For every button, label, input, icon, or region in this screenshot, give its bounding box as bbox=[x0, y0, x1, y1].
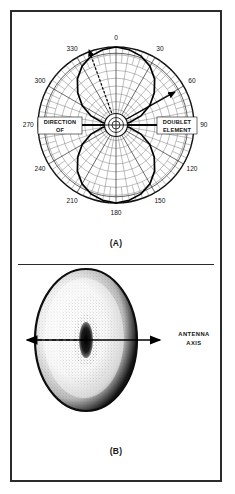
panel-b-solid-pattern: ANTENNA AXIS (B) bbox=[12, 264, 220, 480]
antenna-axis-label-line1: ANTENNA bbox=[178, 331, 210, 337]
angle-label-60: 60 bbox=[188, 77, 196, 84]
toroid-figure: ANTENNA AXIS bbox=[12, 264, 220, 454]
angle-label-30: 30 bbox=[156, 45, 164, 52]
doublet-element-label-line1: DOUBLET bbox=[163, 119, 192, 125]
polar-chart: 0306090120150180210240270300330 bbox=[12, 12, 220, 238]
panel-a-polar-pattern: 0306090120150180210240270300330 bbox=[12, 12, 220, 264]
angle-label-330: 330 bbox=[67, 45, 78, 52]
panel-b-caption: (B) bbox=[12, 446, 220, 456]
angle-label-180: 180 bbox=[110, 209, 121, 216]
direction-of-annotation: DIRECTION OF bbox=[38, 117, 82, 134]
angle-label-0: 0 bbox=[114, 34, 118, 41]
antenna-axis-label-line2: AXIS bbox=[186, 340, 201, 346]
toroid-figure-svg: ANTENNA AXIS bbox=[12, 264, 220, 454]
angle-label-300: 300 bbox=[34, 77, 45, 84]
panel-a-caption: (A) bbox=[12, 238, 220, 248]
doublet-element-annotation: DOUBLET ELEMENT bbox=[157, 117, 197, 134]
angle-label-240: 240 bbox=[34, 165, 45, 172]
angle-label-120: 120 bbox=[186, 165, 197, 172]
figure-frame: 0306090120150180210240270300330 bbox=[10, 10, 222, 482]
angle-label-150: 150 bbox=[154, 197, 165, 204]
polar-chart-svg: 0306090120150180210240270300330 bbox=[12, 12, 220, 238]
direction-of-label-line1: DIRECTION bbox=[44, 119, 77, 125]
angle-label-270: 270 bbox=[23, 121, 34, 128]
angle-label-210: 210 bbox=[67, 197, 78, 204]
direction-of-label-line2: OF bbox=[56, 127, 65, 133]
angle-label-90: 90 bbox=[200, 121, 208, 128]
doublet-element-label-line2: ELEMENT bbox=[163, 127, 192, 133]
